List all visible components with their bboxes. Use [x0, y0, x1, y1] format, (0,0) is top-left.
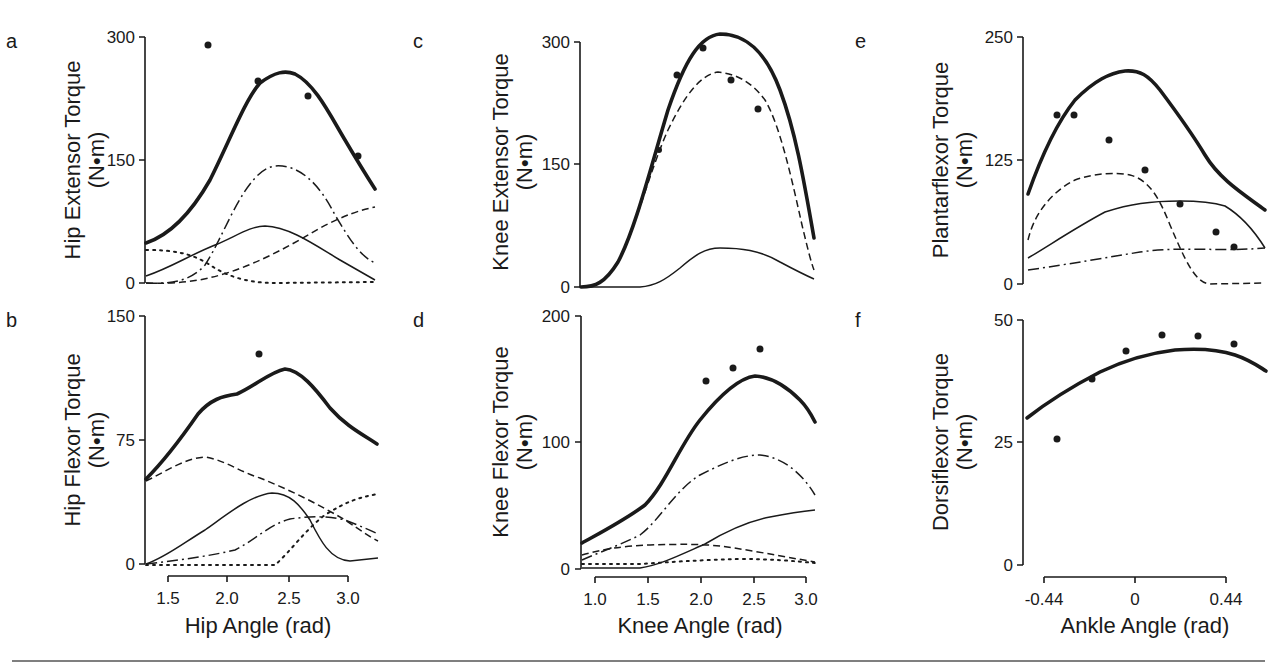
y-tick-f-0: 0: [1004, 556, 1013, 575]
y-tick-a-150: 150: [107, 151, 135, 170]
y-axis-b: [139, 316, 145, 564]
curve-b-total: [146, 369, 377, 479]
x-axis-label-ankle: Ankle Angle (rad): [1061, 613, 1230, 638]
data-point: [1195, 333, 1202, 340]
x-tick-ankle-0: 0: [1130, 590, 1139, 609]
y-axis-c: [574, 42, 580, 287]
y-axis-label-f: Dorsiflexor Torque: [928, 353, 953, 531]
data-point: [1231, 341, 1238, 348]
x-tick-knee-1.0: 1.0: [583, 590, 607, 609]
y-tick-e-125: 125: [985, 151, 1013, 170]
x-axis-label-knee: Knee Angle (rad): [617, 613, 782, 638]
y-axis-a: [139, 37, 145, 283]
y-axis-unit-b: (N•m): [84, 412, 109, 469]
y-tick-b-0: 0: [126, 555, 135, 574]
x-tick-hip-1.5: 1.5: [156, 589, 180, 608]
panel-label-c: c: [413, 30, 423, 52]
y-axis-label-a: Hip Extensor Torque: [60, 61, 85, 260]
y-axis-unit-d: (N•m): [512, 414, 537, 471]
panel-d: d Knee Flexor Torque (N•m) 200 100 0 1.0…: [413, 307, 818, 638]
curve-a-dotted: [146, 250, 375, 283]
y-tick-f-25: 25: [994, 433, 1013, 452]
data-point: [1177, 201, 1184, 208]
curve-e-dashed: [1028, 173, 1265, 284]
x-tick-knee-2.5: 2.5: [742, 590, 766, 609]
data-point: [355, 153, 362, 160]
data-point: [755, 106, 762, 113]
data-point: [1142, 167, 1149, 174]
y-tick-a-0: 0: [126, 274, 135, 293]
y-tick-e-0: 0: [1004, 275, 1013, 294]
data-point: [205, 42, 212, 49]
data-point: [728, 77, 735, 84]
data-point: [757, 346, 764, 353]
y-axis-unit-a: (N•m): [84, 132, 109, 189]
y-axis-d: [575, 316, 581, 569]
y-axis-label-c: Knee Extensor Torque: [488, 53, 513, 270]
data-point: [656, 147, 662, 153]
data-point: [256, 351, 263, 358]
y-tick-f-50: 50: [994, 311, 1013, 330]
y-tick-e-250: 250: [985, 28, 1013, 47]
figure-canvas: a Hip Extensor Torque (N•m) 300 150 0 b …: [0, 0, 1273, 667]
curve-b-thin-solid: [146, 493, 378, 564]
x-axis-knee: [595, 577, 806, 583]
y-axis-label-e: Plantarflexor Torque: [928, 62, 953, 259]
curve-a-dashdot: [146, 166, 375, 283]
data-point: [703, 378, 710, 385]
y-axis-unit-f: (N•m): [952, 414, 977, 471]
y-tick-c-150: 150: [542, 155, 570, 174]
data-point: [1213, 229, 1220, 236]
x-tick-hip-2.5: 2.5: [277, 589, 301, 608]
curve-c-total: [581, 34, 814, 287]
data-point: [1071, 112, 1078, 119]
panel-c: c Knee Extensor Torque (N•m) 300 150 0: [413, 30, 814, 297]
curve-d-dotted: [582, 559, 815, 564]
x-tick-knee-1.5: 1.5: [636, 590, 660, 609]
y-axis-label-d: Knee Flexor Torque: [488, 346, 513, 538]
data-point: [674, 72, 681, 79]
y-tick-b-150: 150: [107, 307, 135, 326]
panel-label-e: e: [855, 30, 866, 52]
x-tick-hip-3.0: 3.0: [336, 589, 360, 608]
y-tick-a-300: 300: [107, 28, 135, 47]
panel-e: e Plantarflexor Torque (N•m) 250 125 0: [855, 28, 1265, 294]
x-tick-ankle-neg-0.44: -0.44: [1025, 590, 1064, 609]
x-tick-knee-2.0: 2.0: [689, 590, 713, 609]
data-point: [1106, 137, 1113, 144]
y-tick-c-0: 0: [561, 278, 570, 297]
panel-label-b: b: [6, 309, 17, 331]
curve-e-thin-solid: [1028, 201, 1265, 258]
panel-label-a: a: [6, 30, 18, 52]
panel-b: b Hip Flexor Torque (N•m) 150 75 0 1.5 2…: [6, 307, 378, 638]
data-point: [1054, 112, 1061, 119]
panel-f: f Dorsiflexor Torque (N•m) 50 25 0 -0.44…: [855, 309, 1266, 638]
data-point: [1231, 244, 1238, 251]
y-tick-c-300: 300: [542, 33, 570, 52]
y-tick-d-200: 200: [542, 307, 570, 326]
y-tick-d-100: 100: [542, 433, 570, 452]
y-axis-unit-e: (N•m): [952, 132, 977, 189]
x-tick-hip-2.0: 2.0: [215, 589, 239, 608]
data-point: [1123, 348, 1130, 355]
x-tick-ankle-0.44: 0.44: [1209, 590, 1242, 609]
x-tick-knee-3.0: 3.0: [794, 590, 818, 609]
y-tick-d-0: 0: [561, 560, 570, 579]
data-point: [1159, 332, 1166, 339]
curve-b-dotted: [146, 494, 378, 565]
curve-e-dashdot: [1028, 248, 1265, 270]
y-axis-e: [1017, 37, 1023, 284]
x-axis-hip: [168, 576, 348, 582]
curve-b-dashed: [146, 457, 378, 541]
y-axis-label-b: Hip Flexor Torque: [60, 353, 85, 526]
panel-a: a Hip Extensor Torque (N•m) 300 150 0: [6, 28, 375, 293]
curve-a-total: [146, 72, 375, 243]
curve-d-dashdot: [582, 455, 815, 560]
curve-b-dashdot: [146, 517, 378, 564]
y-axis-f: [1017, 320, 1023, 565]
curve-d-total: [582, 376, 815, 543]
y-axis-unit-c: (N•m): [512, 134, 537, 191]
x-axis-label-hip: Hip Angle (rad): [185, 613, 332, 638]
panel-label-d: d: [413, 309, 424, 331]
data-point: [700, 45, 707, 52]
